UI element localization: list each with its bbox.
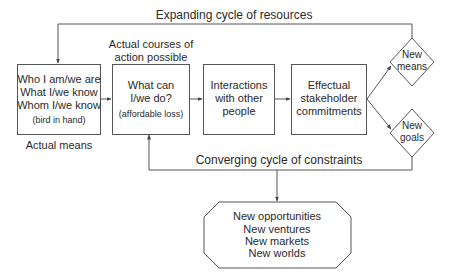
what-can-line-2: I/we do?	[130, 92, 172, 104]
commitments-line-2: stakeholder	[301, 92, 358, 104]
what-can-line-1: What can	[128, 79, 174, 91]
actual-means-line-1: Who I am/we are	[17, 73, 100, 85]
new-goals-line-2: goals	[400, 132, 424, 143]
outcome-new-ventures: New ventures	[243, 223, 311, 235]
interactions-line-3: people	[222, 105, 255, 117]
commitments-line-3: commitments	[296, 105, 362, 117]
converging-cycle-connector	[149, 135, 412, 201]
actual-means-caption: Actual means	[26, 139, 93, 151]
arrow-to-new-means	[367, 66, 391, 99]
outcome-new-markets: New markets	[245, 235, 310, 247]
interactions-line-1: Interactions	[211, 79, 268, 91]
interactions-line-2: with other	[214, 92, 263, 104]
actual-means-line-2: What I/we know	[20, 86, 98, 98]
effectuation-diagram: Expanding cycle of resources Who I am/we…	[0, 0, 452, 280]
actual-means-line-3: Whom I/we know	[17, 99, 101, 111]
commitments-line-1: Effectual	[308, 79, 351, 91]
outcome-new-opportunities: New opportunities	[233, 210, 322, 222]
courses-caption-line-1: Actual courses of	[109, 38, 194, 50]
new-goals-line-1: New	[402, 120, 423, 131]
arrow-to-new-goals	[367, 99, 391, 129]
courses-caption-line-2: action possible	[115, 51, 188, 63]
new-means-line-2: means	[397, 61, 427, 72]
expanding-cycle-label: Expanding cycle of resources	[156, 8, 313, 22]
new-means-line-1: New	[402, 49, 423, 60]
affordable-loss-note: (affordable loss)	[119, 109, 183, 119]
bird-in-hand-note: (bird in hand)	[32, 115, 85, 125]
outcome-new-worlds: New worlds	[249, 247, 306, 259]
converging-cycle-label: Converging cycle of constraints	[196, 153, 363, 167]
